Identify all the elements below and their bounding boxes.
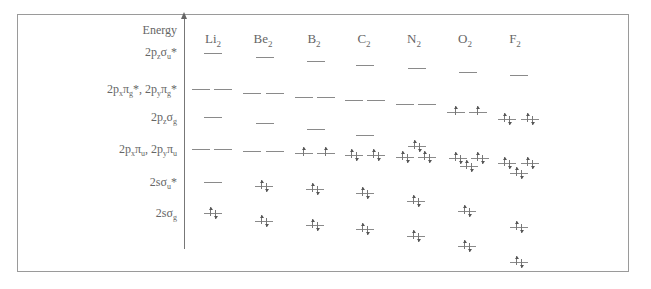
spin-down-electron-icon [521, 224, 522, 233]
spin-up-electron-icon [504, 113, 505, 122]
spin-down-electron-icon [469, 243, 470, 252]
orbital-level [317, 97, 335, 98]
spin-down-electron-icon [482, 155, 483, 164]
orbital-label-pi_g_star: 2pxπg*, 2pyπg* [107, 82, 177, 101]
energy-axis-label: Energy [143, 23, 177, 37]
orbital-level [408, 68, 426, 69]
orbital-level [295, 153, 313, 154]
orbital-label-s2s_sg: 2sσg [156, 206, 177, 225]
orbital-level [408, 146, 426, 147]
orbital-level [510, 75, 528, 76]
spin-up-electron-icon [477, 152, 478, 161]
spin-down-electron-icon [509, 116, 510, 125]
spin-up-electron-icon [466, 160, 467, 169]
spin-up-electron-icon [477, 106, 478, 115]
orbital-level [458, 211, 476, 212]
spin-down-electron-icon [460, 155, 461, 164]
molecule-label-b2: B2 [307, 31, 320, 49]
spin-down-electron-icon [317, 222, 318, 231]
spin-down-electron-icon [509, 160, 510, 169]
spin-up-electron-icon [413, 230, 414, 239]
spin-up-electron-icon [362, 187, 363, 196]
orbital-level [449, 158, 467, 159]
axis-arrow-icon [181, 12, 187, 19]
orbital-level [243, 151, 261, 152]
orbital-level [255, 186, 273, 187]
molecule-label-f2: F2 [509, 31, 521, 49]
orbital-level [345, 155, 363, 156]
spin-up-electron-icon [455, 152, 456, 161]
spin-down-electron-icon [419, 143, 420, 152]
orbital-level [367, 155, 385, 156]
orbital-level [459, 72, 477, 73]
spin-up-electron-icon [527, 113, 528, 122]
orbital-label-s2pz_sg: 2pzσg [151, 110, 177, 129]
spin-up-electron-icon [504, 157, 505, 166]
spin-down-electron-icon [266, 218, 267, 227]
orbital-level [396, 104, 414, 105]
spin-up-electron-icon [312, 219, 313, 228]
orbital-level [521, 163, 539, 164]
orbital-label-s2pz_su_star: 2pzσu* [145, 45, 177, 64]
spin-down-electron-icon [471, 163, 472, 172]
orbital-level [243, 93, 261, 94]
spin-up-electron-icon [516, 167, 517, 176]
molecule-label-li2: Li2 [205, 31, 221, 49]
orbital-level [356, 229, 374, 230]
spin-down-electron-icon [407, 154, 408, 163]
spin-up-electron-icon [414, 140, 415, 149]
spin-up-electron-icon [516, 256, 517, 265]
orbital-level [214, 89, 232, 90]
molecule-label-o2: O2 [458, 31, 472, 49]
spin-up-electron-icon [413, 195, 414, 204]
orbital-label-s2s_su_star: 2sσu* [150, 175, 177, 194]
orbital-level [317, 153, 335, 154]
orbital-level [471, 158, 489, 159]
orbital-level [367, 100, 385, 101]
orbital-level [510, 173, 528, 174]
orbital-level [418, 104, 436, 105]
spin-up-electron-icon [516, 221, 517, 230]
spin-down-electron-icon [356, 152, 357, 161]
orbital-level [521, 119, 539, 120]
spin-up-electron-icon [325, 147, 326, 156]
spin-down-electron-icon [429, 154, 430, 163]
orbital-level [458, 246, 476, 247]
spin-down-electron-icon [378, 152, 379, 161]
orbital-level [407, 201, 425, 202]
spin-up-electron-icon [210, 207, 211, 216]
orbital-level [214, 149, 232, 150]
orbital-level [418, 157, 436, 158]
spin-up-electron-icon [303, 147, 304, 156]
spin-up-electron-icon [424, 151, 425, 160]
spin-up-electron-icon [312, 183, 313, 192]
orbital-level [510, 262, 528, 263]
orbital-label-pi_u: 2pxπu, 2pyπu [119, 142, 177, 161]
spin-up-electron-icon [261, 180, 262, 189]
spin-up-electron-icon [455, 106, 456, 115]
orbital-level [266, 151, 284, 152]
molecule-label-n2: N2 [407, 31, 421, 49]
spin-up-electron-icon [261, 215, 262, 224]
orbital-level [396, 157, 414, 158]
spin-up-electron-icon [464, 240, 465, 249]
orbital-level [204, 117, 222, 118]
spin-down-electron-icon [532, 116, 533, 125]
spin-up-electron-icon [373, 149, 374, 158]
orbital-level [356, 135, 374, 136]
orbital-level [306, 189, 324, 190]
orbital-level [307, 61, 325, 62]
orbital-level [356, 65, 374, 66]
spin-up-electron-icon [362, 223, 363, 232]
spin-down-electron-icon [367, 226, 368, 235]
orbital-level [345, 100, 363, 101]
spin-down-electron-icon [418, 233, 419, 242]
energy-axis [184, 17, 185, 249]
spin-up-electron-icon [527, 157, 528, 166]
orbital-level [192, 149, 210, 150]
orbital-level [255, 221, 273, 222]
orbital-level [498, 163, 516, 164]
spin-down-electron-icon [215, 210, 216, 219]
orbital-level [407, 236, 425, 237]
orbital-level [447, 112, 465, 113]
